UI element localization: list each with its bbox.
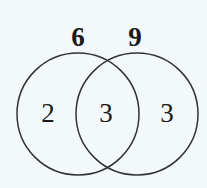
set-b-total-label: 9 [128,24,142,51]
set-a-total-label: 6 [71,24,85,51]
intersection-region-label: 3 [99,100,113,127]
set-a-circle [17,53,139,175]
venn-circles [0,0,207,188]
set-b-circle [76,53,198,175]
set-b-only-region-label: 3 [160,100,174,127]
set-a-only-region-label: 2 [41,100,55,127]
venn-diagram: 6 9 2 3 3 [0,0,207,188]
